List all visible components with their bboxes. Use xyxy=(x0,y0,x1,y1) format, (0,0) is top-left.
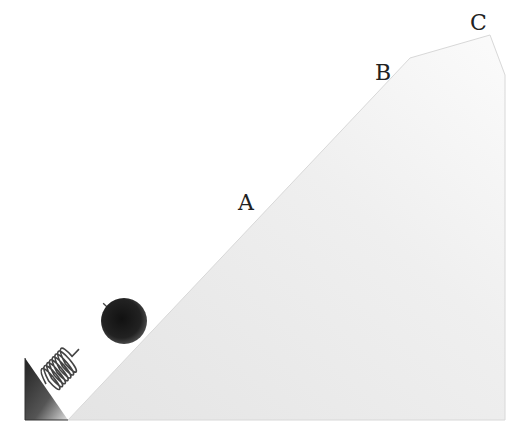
ball xyxy=(101,298,147,344)
label-b: B xyxy=(375,62,391,84)
ramp xyxy=(68,35,505,420)
diagram-canvas xyxy=(0,0,520,447)
label-c: C xyxy=(470,12,487,34)
label-a: A xyxy=(238,192,254,214)
